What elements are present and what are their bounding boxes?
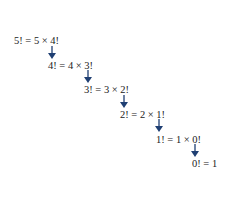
down-arrow-icon <box>120 95 128 108</box>
down-arrow-icon <box>191 144 199 157</box>
step-0-factorial: 0! = 1 <box>192 158 217 170</box>
down-arrow-icon <box>155 119 163 132</box>
down-arrow-icon <box>84 70 92 83</box>
down-arrow-icon <box>48 46 56 59</box>
